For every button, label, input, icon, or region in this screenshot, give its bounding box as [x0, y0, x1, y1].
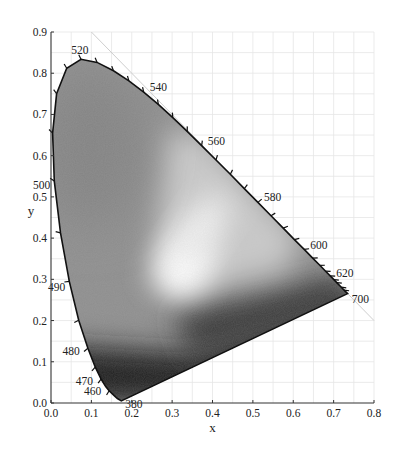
y-tick-label: 0.6: [33, 150, 48, 162]
wavelength-label-480: 480: [63, 345, 81, 357]
x-tick-label: 0.1: [84, 407, 99, 419]
x-tick-label: 0.6: [286, 407, 301, 419]
wavelength-label-520: 520: [71, 44, 89, 56]
x-tick-label: 0.7: [326, 407, 341, 419]
x-tick-label: 0.2: [125, 407, 140, 419]
x-tick-label: 0.8: [367, 407, 382, 419]
wavelength-label-580: 580: [264, 191, 282, 203]
wavelength-tick: [84, 348, 88, 351]
wavelength-tick: [304, 249, 309, 250]
y-tick-label: 0.0: [33, 397, 48, 409]
wavelength-tick: [64, 64, 67, 68]
y-tick-label: 0.3: [33, 273, 48, 285]
wavelength-tick: [283, 226, 288, 228]
y-tick-label: 0.8: [33, 67, 48, 79]
wavelength-tick: [337, 283, 342, 284]
wavelength-label-470: 470: [76, 375, 94, 387]
y-axis-label: y: [28, 203, 35, 218]
x-tick-label: 0.5: [246, 407, 261, 419]
wavelength-label-620: 620: [336, 267, 354, 279]
wavelength-label-600: 600: [310, 239, 328, 251]
wavelength-tick: [158, 99, 159, 104]
wavelength-tick: [230, 170, 232, 174]
wavelength-tick: [258, 199, 262, 202]
wavelength-label-540: 540: [150, 81, 168, 93]
wavelength-tick: [107, 391, 110, 395]
chromaticity-chart: 380460470480490500520540560580600620700 …: [0, 0, 402, 454]
y-tick-label: 0.7: [33, 108, 48, 120]
wavelength-tick: [294, 238, 299, 239]
y-tick-label: 0.1: [33, 356, 48, 368]
wavelength-tick: [92, 367, 95, 371]
x-tick-label: 0.3: [165, 407, 180, 419]
wavelength-label-500: 500: [33, 179, 51, 191]
wavelength-tick: [244, 185, 247, 189]
y-tick-label: 0.9: [33, 26, 48, 38]
x-axis-label: x: [209, 420, 216, 435]
wavelength-tick: [54, 90, 57, 94]
wavelength-tick: [202, 141, 203, 146]
x-tick-label: 0.4: [205, 407, 220, 419]
y-tick-label: 0.2: [33, 315, 48, 327]
wavelength-label-700: 700: [352, 293, 370, 305]
y-tick-label: 0.5: [33, 191, 48, 203]
wavelength-tick: [341, 287, 346, 288]
y-tick-label: 0.4: [33, 232, 48, 244]
wavelength-tick: [344, 290, 349, 291]
wavelength-label-560: 560: [208, 135, 226, 147]
